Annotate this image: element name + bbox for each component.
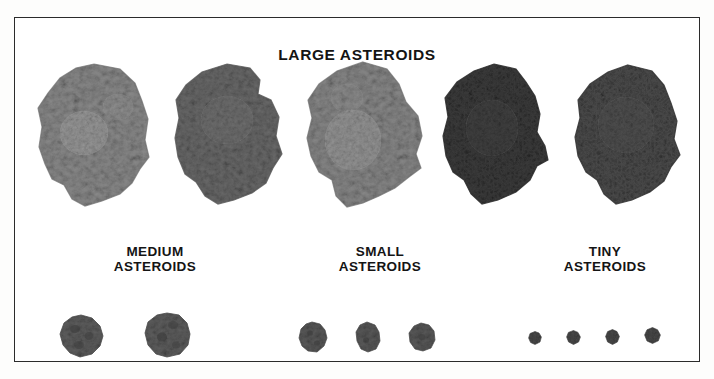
small-asteroid-1 — [298, 321, 328, 353]
tiny-asteroid-3 — [605, 329, 620, 345]
large-asteroid-2 — [172, 62, 286, 208]
large-asteroid-3 — [303, 60, 427, 210]
tiny-asteroid-1 — [528, 331, 542, 345]
asteroid-size-chart-figure: LARGE ASTEROIDS — [0, 0, 714, 379]
small-asteroids-label-line2: ASTEROIDS — [280, 259, 480, 274]
tiny-asteroid-4 — [644, 327, 661, 344]
medium-asteroids-label-line1: MEDIUM — [55, 244, 255, 259]
small-asteroid-3 — [408, 322, 436, 352]
small-asteroids-label: SMALL ASTEROIDS — [280, 244, 480, 274]
large-asteroid-4 — [440, 62, 552, 208]
small-asteroid-2 — [355, 321, 381, 353]
tiny-asteroids-label-line1: TINY — [505, 244, 705, 259]
medium-asteroids-label: MEDIUM ASTEROIDS — [55, 244, 255, 274]
small-asteroids-label-line1: SMALL — [280, 244, 480, 259]
tiny-asteroids-label: TINY ASTEROIDS — [505, 244, 705, 274]
medium-asteroids-label-line2: ASTEROIDS — [55, 259, 255, 274]
tiny-asteroids-label-line2: ASTEROIDS — [505, 259, 705, 274]
medium-asteroid-2 — [144, 312, 192, 358]
large-asteroid-1 — [36, 61, 154, 209]
tiny-asteroid-2 — [566, 330, 581, 345]
figure-frame-border: LARGE ASTEROIDS — [14, 17, 700, 362]
large-asteroid-5 — [572, 63, 686, 208]
medium-asteroid-1 — [59, 314, 105, 358]
